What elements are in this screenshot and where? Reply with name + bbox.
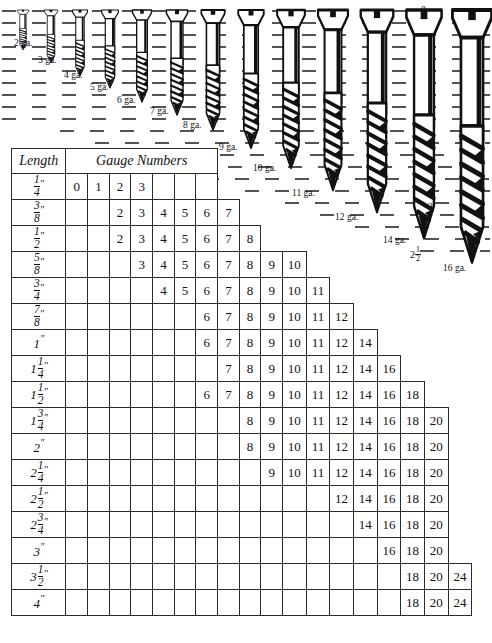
inch-mark: ″ <box>40 282 44 293</box>
length-cell: 1″ <box>12 330 66 356</box>
gauge-cell <box>196 408 218 434</box>
gauge-cell <box>218 486 240 512</box>
table-row: 214″910111214161820 <box>12 460 492 486</box>
gauge-cell: 14 <box>353 330 377 356</box>
gauge-cell: 14 <box>353 512 377 538</box>
gauge-cell-outside <box>448 538 472 564</box>
gauge-cell <box>174 564 196 590</box>
gauge-cell <box>88 304 110 330</box>
gauge-cell-outside <box>306 226 330 252</box>
table-row: 34″4567891011 <box>12 278 492 304</box>
gauge-cell: 14 <box>353 434 377 460</box>
gauge-cell <box>196 486 218 512</box>
gauge-cell-outside <box>401 304 425 330</box>
gauge-cell-outside <box>239 174 261 200</box>
gauge-cell <box>66 590 88 616</box>
gauge-cell <box>66 564 88 590</box>
gauge-cell: 3 <box>131 226 153 252</box>
gauge-cell-outside <box>472 512 492 538</box>
gauge-cell <box>306 590 330 616</box>
table-row: 234″14161820 <box>12 512 492 538</box>
gauge-cell: 8 <box>239 408 261 434</box>
length-label: 312″ <box>30 564 47 588</box>
inch-mark: ″ <box>40 541 44 552</box>
gauge-cell-outside <box>261 226 283 252</box>
gauge-cell-outside <box>377 304 401 330</box>
gauge-cell: 20 <box>424 408 448 434</box>
length-cell: 34″ <box>12 278 66 304</box>
gauge-cell: 4 <box>153 226 175 252</box>
gauge-cell <box>153 512 175 538</box>
inch-mark: ″ <box>43 412 47 423</box>
inch-mark: ″ <box>40 204 44 215</box>
gauge-cell <box>66 460 88 486</box>
gauge-cell <box>131 278 153 304</box>
gauge-cell: 9 <box>261 460 283 486</box>
length-whole: 1 <box>30 361 37 376</box>
gauge-length-table: Length Gauge Numbers 14″012338″23456712″… <box>11 148 492 616</box>
inch-mark: ″ <box>40 437 44 448</box>
gauge-cell: 11 <box>306 408 330 434</box>
gauge-cell: 6 <box>196 304 218 330</box>
length-cell: 234″ <box>12 512 66 538</box>
gauge-cell: 2 <box>109 174 131 200</box>
length-cell: 214″ <box>12 460 66 486</box>
gauge-cell <box>131 512 153 538</box>
gauge-cell <box>353 564 377 590</box>
gauge-cell: 7 <box>218 382 240 408</box>
gauge-cell <box>66 382 88 408</box>
gauge-cell: 10 <box>283 278 307 304</box>
gauge-cell <box>196 174 218 200</box>
length-whole: 1 <box>30 413 37 428</box>
gauge-cell <box>330 564 354 590</box>
length-label: 112″ <box>30 382 47 406</box>
gauge-label-8: 8 ga. <box>183 120 201 130</box>
gauge-cell-outside <box>472 564 492 590</box>
gauge-cell-outside <box>472 460 492 486</box>
gauge-cell: 7 <box>218 278 240 304</box>
gauge-cell <box>131 538 153 564</box>
gauge-cell: 6 <box>196 382 218 408</box>
gauge-cell-outside <box>448 382 472 408</box>
gauge-cell-outside <box>448 434 472 460</box>
length-cell: 112″ <box>12 382 66 408</box>
gauge-cell <box>153 538 175 564</box>
length-label: 134″ <box>30 408 47 432</box>
gauge-cell <box>330 538 354 564</box>
gauge-cell-outside <box>401 200 425 226</box>
length-label: 3″ <box>34 542 44 558</box>
gauge-cell: 11 <box>306 356 330 382</box>
gauge-cell-outside <box>424 200 448 226</box>
gauge-cell <box>88 408 110 434</box>
gauge-cell-outside <box>472 590 492 616</box>
gauge-cell-outside <box>377 226 401 252</box>
gauge-cell-outside <box>472 278 492 304</box>
gauge-cell <box>153 382 175 408</box>
header-length: Length <box>12 149 66 174</box>
gauge-cell: 18 <box>401 408 425 434</box>
gauge-cell: 3 <box>131 174 153 200</box>
inch-mark: ″ <box>40 230 44 241</box>
inch-mark: ″ <box>43 516 47 527</box>
gauge-cell: 8 <box>239 226 261 252</box>
gauge-cell <box>261 564 283 590</box>
gauge-cell: 1 <box>88 174 110 200</box>
gauge-cell-outside <box>218 174 240 200</box>
gauge-cell: 6 <box>196 278 218 304</box>
gauge-cell: 4 <box>153 200 175 226</box>
gauge-cell <box>88 226 110 252</box>
gauge-cell: 6 <box>196 200 218 226</box>
gauge-label-7: 7 ga. <box>150 106 168 116</box>
gauge-cell: 18 <box>401 486 425 512</box>
gauge-cell-outside <box>424 330 448 356</box>
gauge-cell <box>218 408 240 434</box>
length-label: 4″ <box>34 594 44 610</box>
gauge-cell: 20 <box>424 512 448 538</box>
ruler-number-1: 1 <box>427 101 432 112</box>
gauge-cell <box>66 304 88 330</box>
gauge-cell <box>174 408 196 434</box>
gauge-cell-outside <box>401 330 425 356</box>
gauge-cell <box>218 434 240 460</box>
gauge-cell: 16 <box>377 486 401 512</box>
gauge-cell: 7 <box>218 252 240 278</box>
